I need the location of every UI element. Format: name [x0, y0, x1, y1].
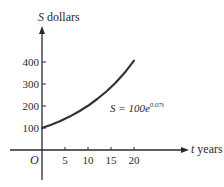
x-tick-label: 10 [80, 155, 96, 166]
y-tick-label: 200 [15, 101, 39, 112]
x-tick-label: 5 [57, 155, 73, 166]
curve-equation: S = 100e0.07t [110, 100, 164, 114]
x-axis-label: t years [191, 144, 223, 155]
y-axis-arrow-icon [39, 26, 45, 34]
x-tick-label: 20 [126, 155, 142, 166]
x-axis-unit: years [197, 142, 222, 156]
y-tick-label: 100 [15, 123, 39, 134]
y-tick-label: 300 [15, 79, 39, 90]
y-axis-variable: S [38, 10, 44, 24]
y-tick-label: 400 [15, 57, 39, 68]
x-tick-label: 15 [103, 155, 119, 166]
equation-exponent: 0.07t [150, 101, 164, 109]
equation-lhs: S = 100e [110, 102, 150, 114]
x-axis-variable: t [191, 142, 194, 156]
y-axis-label: S dollars [38, 12, 80, 23]
x-axis-arrow-icon [181, 147, 189, 153]
origin-label: O [30, 155, 39, 166]
y-axis-unit: dollars [47, 10, 80, 24]
exponential-curve [42, 61, 134, 128]
